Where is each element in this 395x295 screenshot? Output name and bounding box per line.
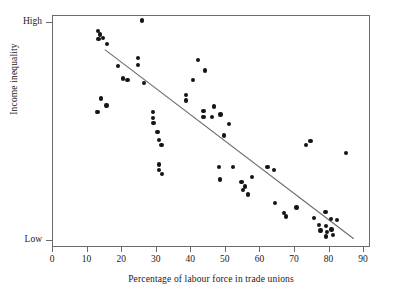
data-point bbox=[284, 214, 288, 218]
x-axis-tick bbox=[87, 247, 88, 252]
data-point bbox=[243, 184, 247, 188]
data-point bbox=[142, 81, 146, 85]
data-point bbox=[331, 233, 335, 237]
x-axis-tick bbox=[363, 247, 364, 252]
data-point bbox=[217, 165, 221, 169]
data-point bbox=[210, 115, 214, 119]
x-axis-tick-label: 90 bbox=[350, 255, 376, 265]
data-point bbox=[231, 165, 235, 169]
data-point bbox=[335, 218, 339, 222]
plot-area bbox=[53, 16, 369, 246]
data-point bbox=[227, 122, 231, 126]
data-point bbox=[317, 223, 321, 227]
regression-line bbox=[53, 16, 369, 246]
x-axis-tick-label: 20 bbox=[108, 255, 134, 265]
x-axis-tick-label: 10 bbox=[74, 255, 100, 265]
data-point bbox=[324, 224, 328, 228]
data-point bbox=[140, 18, 144, 22]
x-axis-tick bbox=[156, 247, 157, 252]
x-axis-tick-label: 50 bbox=[212, 255, 238, 265]
x-axis-title: Percentage of labour force in trade unio… bbox=[52, 274, 370, 284]
x-axis-tick bbox=[294, 247, 295, 252]
data-point bbox=[294, 205, 298, 209]
y-axis-tick-label: Low bbox=[25, 235, 42, 245]
x-axis-tick bbox=[52, 247, 53, 252]
data-point bbox=[222, 133, 226, 137]
x-axis-tick bbox=[225, 247, 226, 252]
plot-frame bbox=[52, 15, 370, 247]
data-point bbox=[101, 36, 105, 40]
data-point bbox=[151, 110, 155, 114]
x-axis-tick bbox=[329, 247, 330, 252]
data-point bbox=[184, 93, 188, 97]
data-point bbox=[273, 201, 277, 205]
data-point bbox=[151, 121, 155, 125]
data-point bbox=[265, 165, 269, 169]
data-point bbox=[105, 42, 109, 46]
data-point bbox=[203, 68, 207, 72]
data-point bbox=[157, 138, 161, 142]
scatter-chart-figure: Income inequality 0102030405060708090Hig… bbox=[0, 0, 395, 295]
data-point bbox=[308, 139, 312, 143]
data-point bbox=[329, 227, 333, 231]
data-point bbox=[318, 228, 322, 232]
x-axis-tick-label: 70 bbox=[281, 255, 307, 265]
data-point bbox=[160, 172, 164, 176]
data-point bbox=[344, 151, 348, 155]
data-point bbox=[329, 217, 333, 221]
data-point bbox=[201, 109, 205, 113]
data-point bbox=[246, 192, 250, 196]
data-point bbox=[191, 78, 195, 82]
x-axis-tick-label: 30 bbox=[143, 255, 169, 265]
data-point bbox=[304, 143, 308, 147]
data-point bbox=[99, 96, 103, 100]
data-point bbox=[312, 216, 316, 220]
data-point bbox=[184, 98, 188, 102]
x-axis-tick-label: 40 bbox=[177, 255, 203, 265]
data-point bbox=[196, 58, 200, 62]
data-point bbox=[201, 115, 205, 119]
data-point bbox=[116, 64, 120, 68]
y-axis-tick bbox=[46, 22, 52, 23]
data-point bbox=[151, 116, 155, 120]
data-point bbox=[95, 110, 99, 114]
data-point bbox=[323, 210, 327, 214]
data-point bbox=[157, 162, 161, 166]
y-axis-tick-label: High bbox=[23, 17, 42, 27]
x-axis-tick bbox=[121, 247, 122, 252]
x-axis-tick bbox=[259, 247, 260, 252]
data-point bbox=[125, 78, 129, 82]
data-point bbox=[136, 56, 140, 60]
x-axis-tick-label: 80 bbox=[316, 255, 342, 265]
x-axis-tick-label: 60 bbox=[246, 255, 272, 265]
data-point bbox=[218, 177, 222, 181]
x-axis-tick bbox=[190, 247, 191, 252]
y-axis-tick bbox=[46, 240, 52, 241]
y-axis-title: Income inequality bbox=[9, 9, 19, 149]
data-point bbox=[272, 168, 276, 172]
data-point bbox=[104, 103, 108, 107]
data-point bbox=[159, 143, 163, 147]
data-point bbox=[155, 130, 159, 134]
x-axis-tick-label: 0 bbox=[39, 255, 65, 265]
data-point bbox=[218, 112, 222, 116]
data-point bbox=[324, 234, 328, 238]
data-point bbox=[212, 104, 216, 108]
data-point bbox=[136, 63, 140, 67]
data-point bbox=[250, 175, 254, 179]
